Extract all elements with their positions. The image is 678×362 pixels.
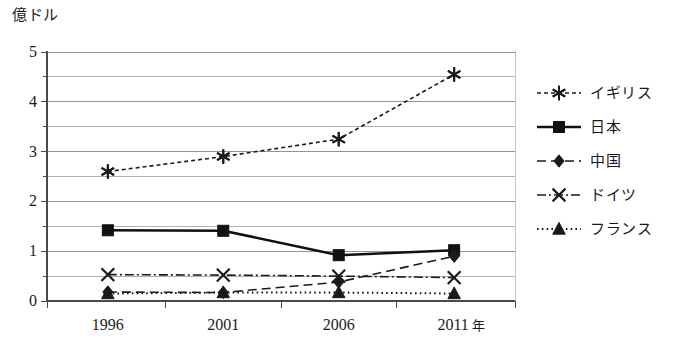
series-1	[102, 67, 461, 179]
legend-label: ドイツ	[590, 188, 637, 203]
x-tick-label-text: 2011	[437, 316, 468, 333]
data-point-square	[333, 250, 344, 261]
legend-symbol-diamond-icon	[536, 152, 582, 170]
data-point-asterisk	[332, 132, 344, 146]
legend-item-5[interactable]: フランス	[536, 212, 678, 246]
data-point-asterisk	[448, 67, 460, 81]
x-tick-label-text: 2001	[207, 316, 239, 333]
data-point-square	[554, 122, 565, 133]
x-tick-label-text: 1996	[92, 316, 124, 333]
legend-symbol-square-icon	[536, 118, 582, 136]
x-axis-unit-suffix: 年	[469, 318, 485, 333]
line-chart: 億ドル 012345 1996200120062011年 イギリス日本中国ドイツ…	[0, 0, 678, 362]
legend-label: 日本	[590, 120, 621, 135]
gridlines	[47, 52, 515, 301]
x-tick-label: 2006	[294, 317, 384, 333]
data-point-square	[218, 225, 229, 236]
y-tick-label: 5	[7, 44, 37, 60]
chart-legend: イギリス日本中国ドイツフランス	[536, 76, 678, 246]
y-tick-label: 3	[7, 144, 37, 160]
x-tick-label: 2001	[178, 317, 268, 333]
axis-lines	[47, 51, 515, 301]
legend-item-2[interactable]: 日本	[536, 110, 678, 144]
legend-symbol-x-cross-icon	[536, 186, 582, 204]
y-tick-label: 2	[7, 193, 37, 209]
legend-label: フランス	[590, 222, 652, 237]
legend-label: イギリス	[590, 86, 652, 101]
x-axis-ticks	[47, 301, 515, 308]
legend-symbol-asterisk-icon	[536, 84, 582, 102]
series-3	[103, 250, 459, 299]
x-tick-label: 1996	[63, 317, 153, 333]
series-2	[102, 225, 459, 261]
legend-item-1[interactable]: イギリス	[536, 76, 678, 110]
y-tick-label: 0	[7, 293, 37, 309]
x-tick-label: 2011年	[416, 317, 506, 333]
y-axis-ticks	[41, 52, 47, 301]
y-tick-label: 4	[7, 94, 37, 110]
y-tick-label: 1	[7, 243, 37, 259]
data-point-diamond	[554, 155, 564, 167]
legend-symbol-triangle-icon	[536, 220, 582, 238]
data-point-square	[102, 225, 113, 236]
series-line	[108, 74, 454, 171]
x-tick-label-text: 2006	[323, 316, 355, 333]
legend-label: 中国	[590, 154, 621, 169]
legend-item-3[interactable]: 中国	[536, 144, 678, 178]
data-point-triangle	[553, 222, 566, 234]
series-line	[108, 293, 454, 294]
legend-item-4[interactable]: ドイツ	[536, 178, 678, 212]
